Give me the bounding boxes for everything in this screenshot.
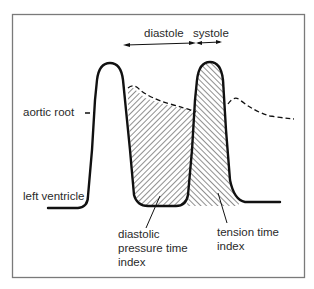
systole-label: systole <box>193 27 229 39</box>
tension-time-index-label: tension time index <box>217 226 279 252</box>
svg-text:index: index <box>118 256 146 268</box>
svg-text:tension time: tension time <box>217 226 279 238</box>
svg-text:pressure time: pressure time <box>118 242 188 254</box>
left-ventricle-label: left ventricle <box>23 190 84 202</box>
diastole-label: diastole <box>144 27 184 39</box>
systole-arrow <box>196 40 222 45</box>
diastolic-pressure-time-index-area <box>128 87 195 206</box>
aortic-root-label: aortic root <box>23 106 75 118</box>
diagram-canvas: diastole systole aortic root left ventri… <box>0 0 314 289</box>
svg-text:diastolic: diastolic <box>118 228 160 240</box>
diastolic-pressure-time-index-label: diastolic pressure time index <box>118 228 188 268</box>
svg-text:index: index <box>217 240 245 252</box>
diastole-arrow <box>123 41 196 47</box>
